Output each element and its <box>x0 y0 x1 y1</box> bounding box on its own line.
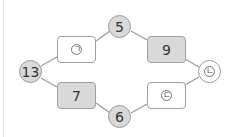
blank-marker: ㄴ <box>204 66 215 77</box>
number-circle-left: 13 <box>19 60 42 83</box>
box-value: 9 <box>162 42 171 58</box>
blank-circle-right: ㄴ <box>198 60 221 83</box>
blank-marker: ㄱ <box>71 44 82 55</box>
blank-box-lower-right: ㄷ <box>147 82 186 109</box>
blank-marker: ㄷ <box>161 90 172 101</box>
number-circle-bottom: 6 <box>108 105 131 128</box>
number-box-upper-right: 9 <box>147 36 186 63</box>
circle-value: 5 <box>115 19 124 35</box>
circle-value: 6 <box>115 109 124 125</box>
circle-value: 13 <box>22 64 40 80</box>
blank-box-upper-left: ㄱ <box>57 36 96 63</box>
box-value: 7 <box>72 88 81 104</box>
number-box-lower-left: 7 <box>57 82 96 109</box>
number-circle-top: 5 <box>108 15 131 38</box>
